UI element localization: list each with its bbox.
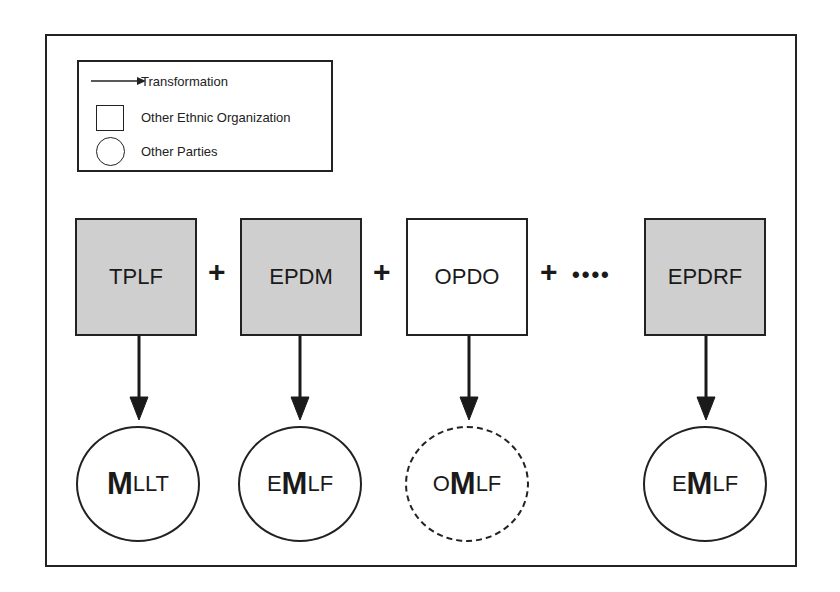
party-suffix: LF	[307, 471, 333, 497]
party-suffix: LF	[712, 471, 738, 497]
party-suffix: LLT	[133, 471, 169, 497]
party-bold-letter: M	[450, 466, 476, 502]
party-circle-emlf: EMLF	[238, 426, 362, 542]
party-circle-omlf: OMLF	[405, 426, 529, 542]
party-circle-emlf-2: EMLF	[643, 426, 767, 542]
party-circle-mllt: MLLT	[76, 426, 200, 542]
party-bold-letter: M	[282, 466, 308, 502]
party-prefix: E	[267, 471, 282, 497]
party-bold-letter: M	[107, 466, 133, 502]
party-bold-letter: M	[687, 466, 713, 502]
party-suffix: LF	[476, 471, 502, 497]
party-prefix: E	[672, 471, 687, 497]
party-prefix: O	[433, 471, 450, 497]
